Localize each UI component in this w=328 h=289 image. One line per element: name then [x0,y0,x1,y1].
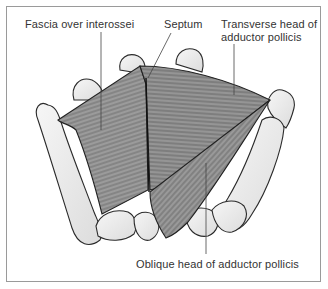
label-fascia-over-interossei: Fascia over interossei [25,18,134,31]
label-transverse-head: Transverse head of adductor pollicis [221,18,317,44]
label-transverse-line2: adductor pollicis [221,31,317,44]
label-septum: Septum [164,18,203,31]
bone-knob-3 [176,49,203,72]
label-transverse-line1: Transverse head of [221,18,317,30]
label-oblique-head: Oblique head of adductor pollicis [136,258,299,271]
bone-carpal-1 [96,211,136,241]
